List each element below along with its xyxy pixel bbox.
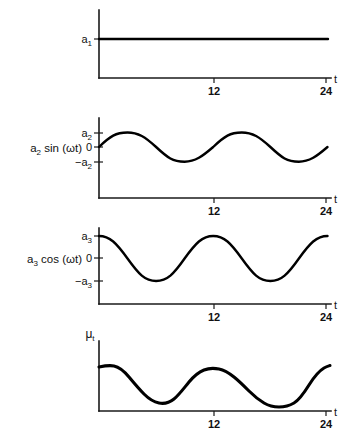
panel-cosine-axis-label-t: t bbox=[334, 299, 337, 311]
panel-constant-xlabel-12: 12 bbox=[208, 85, 220, 97]
panel-sine-axis-label-t: t bbox=[334, 193, 337, 205]
panel-sine: a2 0 −a2 a2 sin (ωt) 12 24 t bbox=[0, 0, 337, 217]
panel-cosine-xlabel-12: 12 bbox=[208, 311, 220, 323]
panel-cosine-ylabel-a3: a3 bbox=[81, 230, 92, 245]
panel-constant: a1 12 24 t bbox=[81, 10, 337, 97]
panel-mu: μt 12 24 t bbox=[85, 327, 337, 430]
panel-cosine-ylabel-zero: 0 bbox=[86, 252, 92, 264]
panel-cosine: a3 0 −a3 a3 cos (ωt) 12 24 t bbox=[27, 228, 337, 323]
panel-mu-xlabel-24: 24 bbox=[320, 418, 333, 430]
panel-constant-axis-label-t: t bbox=[334, 73, 337, 85]
multi-panel-waveform-figure: a1 12 24 t a2 0 −a2 a2 sin (ωt) 12 24 t bbox=[0, 0, 354, 431]
panel-sine-ylabel-neg-a2: −a2 bbox=[75, 156, 93, 171]
sine-curve bbox=[99, 133, 328, 162]
figure-container: a1 12 24 t a2 0 −a2 a2 sin (ωt) 12 24 t bbox=[0, 0, 354, 431]
cosine-curve bbox=[99, 236, 328, 281]
panel-sine-xlabel-12: 12 bbox=[208, 205, 220, 217]
panel-cosine-ylabel-neg-a3: −a3 bbox=[75, 275, 93, 290]
panel-cosine-xlabel-24: 24 bbox=[320, 311, 333, 323]
panel-sine-row-label-text: a2 sin (ωt) bbox=[30, 142, 82, 157]
panel-mu-xlabel-12: 12 bbox=[208, 418, 220, 430]
panel-mu-ylabel-mu-t: μt bbox=[85, 327, 95, 343]
panel-mu-axis-label-t: t bbox=[334, 406, 337, 418]
panel-sine-ylabel-a2: a2 bbox=[81, 127, 92, 142]
panel-constant-xlabel-24: 24 bbox=[320, 85, 333, 97]
panel-constant-ylabel-a1: a1 bbox=[81, 33, 92, 48]
panel-sine-xlabel-24: 24 bbox=[320, 205, 333, 217]
panel-cosine-row-label-text: a3 cos (ωt) bbox=[27, 253, 82, 268]
panel-sine-ylabel-zero: 0 bbox=[86, 141, 92, 153]
mu-curve bbox=[99, 366, 330, 408]
